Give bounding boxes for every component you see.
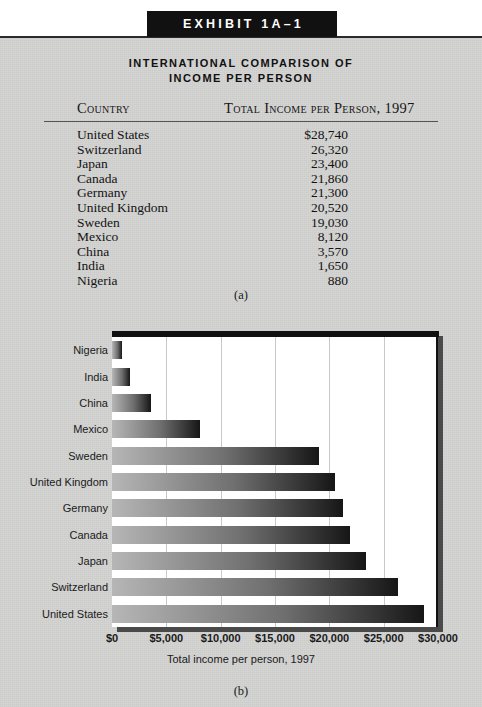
- caption-b: (b): [0, 684, 482, 699]
- table-cell-income: 880: [238, 273, 348, 289]
- category-label-row: United States: [0, 605, 108, 623]
- category-label: Japan: [4, 555, 108, 567]
- bar: [112, 578, 398, 596]
- table-row: Sweden19,030: [44, 215, 438, 230]
- category-label: Nigeria: [4, 344, 108, 356]
- page-title-line1: INTERNATIONAL COMPARISON OF: [0, 56, 482, 71]
- x-tick-label: $20,000: [309, 632, 349, 644]
- bar: [112, 447, 319, 465]
- x-tick-label: $25,000: [364, 632, 404, 644]
- x-tick-label: $5,000: [150, 632, 184, 644]
- table-cell-country: Canada: [77, 171, 117, 187]
- table-cell-country: China: [77, 244, 109, 260]
- x-tick-label: $30,000: [418, 632, 458, 644]
- category-label: China: [4, 397, 108, 409]
- table-cell-income: $28,740: [238, 127, 348, 143]
- category-label-row: Switzerland: [0, 578, 108, 596]
- bar-row: [112, 605, 436, 623]
- table-cell-country: India: [77, 258, 105, 274]
- category-label-row: China: [0, 394, 108, 412]
- bar: [112, 394, 151, 412]
- table-cell-country: Japan: [77, 156, 108, 172]
- bar: [112, 605, 424, 623]
- table-row: Japan23,400: [44, 156, 438, 171]
- bar: [112, 499, 343, 517]
- column-header-country: Country: [77, 100, 130, 117]
- bar: [112, 526, 350, 544]
- table-cell-income: 8,120: [238, 229, 348, 245]
- category-label: Switzerland: [4, 581, 108, 593]
- table-cell-country: Sweden: [77, 215, 120, 231]
- category-label: United Kingdom: [4, 476, 108, 488]
- table-cell-income: 26,320: [238, 142, 348, 158]
- bar-row: [112, 552, 436, 570]
- bar: [112, 420, 200, 438]
- exhibit-page: EXHIBIT 1A–1 INTERNATIONAL COMPARISON OF…: [0, 0, 482, 707]
- category-label: United States: [4, 608, 108, 620]
- table-row: Mexico8,120: [44, 229, 438, 244]
- x-axis-label: Total income per person, 1997: [0, 653, 482, 665]
- category-label-row: Nigeria: [0, 341, 108, 359]
- table-cell-income: 21,300: [238, 185, 348, 201]
- category-label: Canada: [4, 529, 108, 541]
- bar-row: [112, 526, 436, 544]
- table-cell-country: Mexico: [77, 229, 118, 245]
- plot-area: [112, 337, 438, 627]
- table-cell-country: Germany: [77, 185, 127, 201]
- x-tick-label: $15,000: [255, 632, 295, 644]
- bar-row: [112, 420, 436, 438]
- table-row: United States$28,740: [44, 127, 438, 142]
- table-row: United Kingdom20,520: [44, 200, 438, 215]
- bar: [112, 368, 130, 386]
- category-label-row: Mexico: [0, 420, 108, 438]
- category-label-row: Sweden: [0, 447, 108, 465]
- category-label: India: [4, 371, 108, 383]
- table-row: China3,570: [44, 244, 438, 259]
- bar-row: [112, 394, 436, 412]
- caption-a: (a): [0, 288, 482, 303]
- table-cell-country: Switzerland: [77, 142, 141, 158]
- table-row: Switzerland26,320: [44, 142, 438, 157]
- bar-row: [112, 368, 436, 386]
- category-label-row: Canada: [0, 526, 108, 544]
- bar-row: [112, 341, 436, 359]
- table-cell-income: 20,520: [238, 200, 348, 216]
- table-row: Canada21,860: [44, 171, 438, 186]
- bar-row: [112, 499, 436, 517]
- table-cell-country: United Kingdom: [77, 200, 168, 216]
- table-cell-income: 3,570: [238, 244, 348, 260]
- category-label-row: United Kingdom: [0, 473, 108, 491]
- table-cell-country: United States: [77, 127, 149, 143]
- bar: [112, 552, 366, 570]
- x-tick-label: $0: [106, 632, 118, 644]
- table-row: India1,650: [44, 258, 438, 273]
- page-title-line2: INCOME PER PERSON: [0, 71, 482, 86]
- table-row: Nigeria880: [44, 273, 438, 288]
- bar-row: [112, 447, 436, 465]
- bar: [112, 473, 335, 491]
- page-title: INTERNATIONAL COMPARISON OF INCOME PER P…: [0, 56, 482, 86]
- bar: [112, 341, 122, 359]
- table-header-rule: [44, 121, 438, 122]
- table-cell-country: Nigeria: [77, 273, 117, 289]
- table-cell-income: 19,030: [238, 215, 348, 231]
- category-label-row: Germany: [0, 499, 108, 517]
- category-label-row: Japan: [0, 552, 108, 570]
- exhibit-banner: EXHIBIT 1A–1: [147, 11, 337, 37]
- table-header: Country Total Income per Person, 1997: [44, 100, 438, 118]
- column-header-income: Total Income per Person, 1997: [224, 100, 415, 117]
- category-label: Germany: [4, 502, 108, 514]
- table-cell-income: 21,860: [238, 171, 348, 187]
- x-tick-label: $10,000: [201, 632, 241, 644]
- table-row: Germany21,300: [44, 185, 438, 200]
- bar-row: [112, 473, 436, 491]
- income-bar-chart: NigeriaIndiaChinaMexicoSwedenUnited King…: [0, 331, 482, 681]
- table-cell-income: 23,400: [238, 156, 348, 172]
- table-cell-income: 1,650: [238, 258, 348, 274]
- bar-row: [112, 578, 436, 596]
- income-table: United States$28,740Switzerland26,320Jap…: [44, 127, 438, 288]
- category-label: Mexico: [4, 423, 108, 435]
- category-label-row: India: [0, 368, 108, 386]
- category-label: Sweden: [4, 450, 108, 462]
